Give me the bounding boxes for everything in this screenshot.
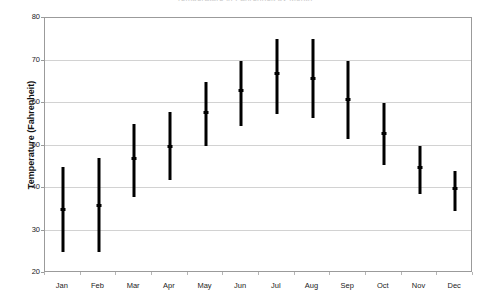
x-axis-tick-mark <box>436 272 437 275</box>
y-axis-tick-label: 80 <box>18 13 40 21</box>
x-axis-tick-mark <box>187 272 188 275</box>
x-axis-tick-label: Dec <box>447 281 460 290</box>
x-axis-tick-label: Aug <box>305 281 318 290</box>
y-axis-tick-label: 50 <box>18 141 40 149</box>
x-axis-tick-label: Jun <box>234 281 246 290</box>
x-axis-tick-mark <box>258 272 259 275</box>
x-axis-tick-label: Jan <box>56 281 68 290</box>
x-axis-tick-label: Apr <box>163 281 175 290</box>
y-axis-tick-mark <box>41 60 44 61</box>
x-axis-tick-mark <box>401 272 402 275</box>
y-axis-tick-label: 20 <box>18 268 40 276</box>
y-axis-tick-label: 30 <box>18 226 40 234</box>
y-axis-tick-mark <box>41 145 44 146</box>
y-axis-tick-mark <box>41 17 44 18</box>
x-axis-tick-mark <box>329 272 330 275</box>
x-axis-tick-label: Nov <box>412 281 425 290</box>
y-axis-tick-label: 40 <box>18 183 40 191</box>
x-axis-tick-label: Jul <box>271 281 281 290</box>
y-axis-tick-mark <box>41 230 44 231</box>
x-axis-tick-label: Sep <box>340 281 353 290</box>
x-axis-tick-mark <box>472 272 473 275</box>
x-axis-tick-mark <box>80 272 81 275</box>
y-axis-tick-label: 60 <box>18 98 40 106</box>
chart-container: Temperature in Fahrenheit by Month Tempe… <box>0 0 489 302</box>
x-axis-tick-mark <box>365 272 366 275</box>
x-axis-tick-label: Feb <box>91 281 104 290</box>
x-axis-tick-mark <box>115 272 116 275</box>
y-axis-tick-label: 70 <box>18 56 40 64</box>
x-axis-tick-label: Oct <box>377 281 389 290</box>
x-axis-tick-label: May <box>197 281 211 290</box>
y-axis-tick-mark <box>41 102 44 103</box>
y-axis: 20304050607080 <box>0 0 489 302</box>
y-axis-tick-mark <box>41 187 44 188</box>
x-axis-tick-label: Mar <box>127 281 140 290</box>
x-axis-tick-mark <box>44 272 45 275</box>
x-axis-tick-mark <box>294 272 295 275</box>
x-axis-tick-mark <box>222 272 223 275</box>
x-axis-tick-mark <box>151 272 152 275</box>
